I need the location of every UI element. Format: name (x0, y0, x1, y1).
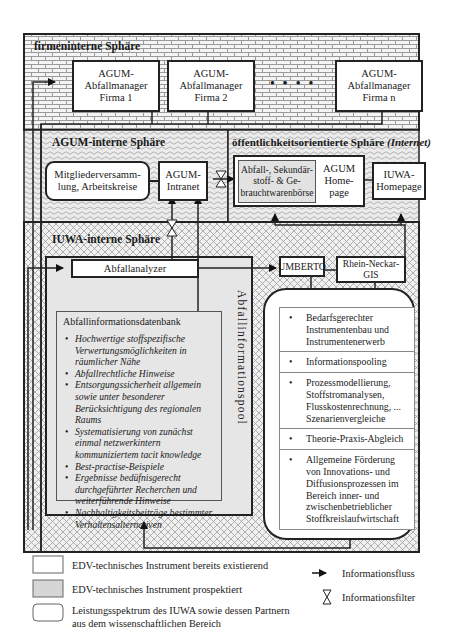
database-item: Ergebnisse bedüfnisgerecht durchgeführte… (75, 472, 215, 507)
company-box-1[interactable]: AGUM-AbfallmanagerFirma 1 (72, 60, 160, 112)
service-item: Allgemeine Förderung von Innovations- un… (279, 450, 415, 530)
gis-box[interactable]: Rhein-Neckar-GIS (336, 256, 406, 283)
database-title: Abfallinformationsdatenbank (63, 316, 215, 327)
service-item: Prozessmodellierung, Stoffstromanalysen,… (279, 373, 415, 429)
legend-prospective-label: EDV-technisches Instrument prospektiert (72, 583, 242, 596)
agum-homepage-box[interactable]: Abfall-, Sekundär-stoff- & Ge-brauchtwar… (233, 155, 365, 207)
sphere-title-iuwa: IUWA-interne Sphäre (52, 233, 160, 245)
database-item: Systematisierung von zunächst einmal net… (75, 426, 215, 461)
database-box[interactable]: Abfallinformationsdatenbank Hochwertige … (56, 311, 222, 501)
legend-flow-label: Informationsfluss (342, 567, 415, 580)
legend-scope-label: Leistungsspektrum des IUWA sowie dessen … (72, 604, 290, 630)
members-intranet-connector (150, 180, 158, 182)
legend-filter-icon (323, 590, 331, 604)
abfallanalyzer-box[interactable]: Abfallanalyzer (71, 259, 199, 278)
database-item: Hochwertige stoffspezifische Verwertungs… (75, 333, 215, 368)
database-item: Entsorgungssicherheit allgemein sowie un… (75, 379, 215, 425)
legend-existing-swatch (33, 556, 63, 573)
umberto-box[interactable]: UMBERTO (279, 256, 325, 277)
members-box[interactable]: Mitgliederversamm-lung, Arbeitskreise (45, 161, 150, 201)
sphere-title-company: firmeninterne Sphäre (34, 40, 140, 52)
sphere-title-agum: AGUM-interne Sphäre (52, 136, 165, 148)
database-item: Abfallrechtliche Hinweise (75, 368, 215, 380)
service-list: Bedarfsgerechter Instrumentenbau und Ins… (279, 307, 415, 530)
iuwa-homepage-box[interactable]: IUWA-Homepage (372, 162, 426, 200)
intranet-box[interactable]: AGUM-Intranet (158, 161, 208, 201)
legend-prospective-swatch (33, 580, 63, 597)
service-item: Theorie-Praxis-Abgleich (279, 429, 415, 450)
exchange-box[interactable]: Abfall-, Sekundär-stoff- & Ge-brauchtwar… (238, 160, 316, 203)
pool-label: Abfallinformationspool (236, 290, 248, 425)
database-list: Hochwertige stoffspezifische Verwertungs… (63, 333, 215, 530)
database-item: Best-practise-Beispiele (75, 461, 215, 473)
service-item: Informationspooling (279, 352, 415, 373)
company-box-2[interactable]: AGUM-AbfallmanagerFirma 2 (167, 60, 255, 112)
ellipsis-dots: ● ● ● ● (270, 78, 316, 87)
sphere-title-public: öffentlichkeitsorientierte Sphäre (Inter… (232, 136, 431, 148)
legend-existing-label: EDV-technisches Instrument bereits exist… (72, 559, 268, 572)
service-item: Bedarfsgerechter Instrumentenbau und Ins… (279, 307, 415, 352)
company-box-n[interactable]: AGUM-AbfallmanagerFirma n (335, 60, 423, 112)
legend-filter-label: Informationsfilter (342, 591, 415, 604)
legend-scope-swatch (33, 604, 63, 621)
database-item: Nachhaltigkeitsbeiträge bestimmter Verha… (75, 507, 215, 530)
